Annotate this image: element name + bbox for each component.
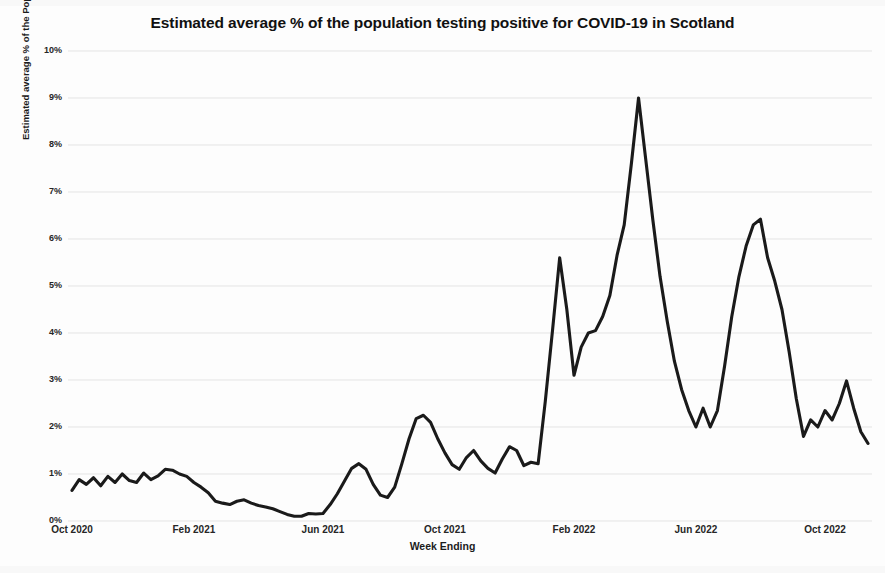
x-axis-title: Week Ending [0, 540, 885, 552]
plot-area [0, 0, 885, 573]
x-tick-label: Oct 2022 [804, 524, 846, 535]
x-tick-label: Jun 2022 [675, 524, 718, 535]
data-line-series [72, 98, 868, 516]
chart-container: Estimated average % of the population te… [0, 0, 885, 573]
gridlines [68, 51, 872, 521]
x-tick-label: Feb 2022 [553, 524, 596, 535]
x-tick-label: Jun 2021 [302, 524, 345, 535]
x-tick-label: Oct 2020 [51, 524, 93, 535]
x-tick-label: Feb 2021 [173, 524, 216, 535]
x-tick-label: Oct 2021 [424, 524, 466, 535]
